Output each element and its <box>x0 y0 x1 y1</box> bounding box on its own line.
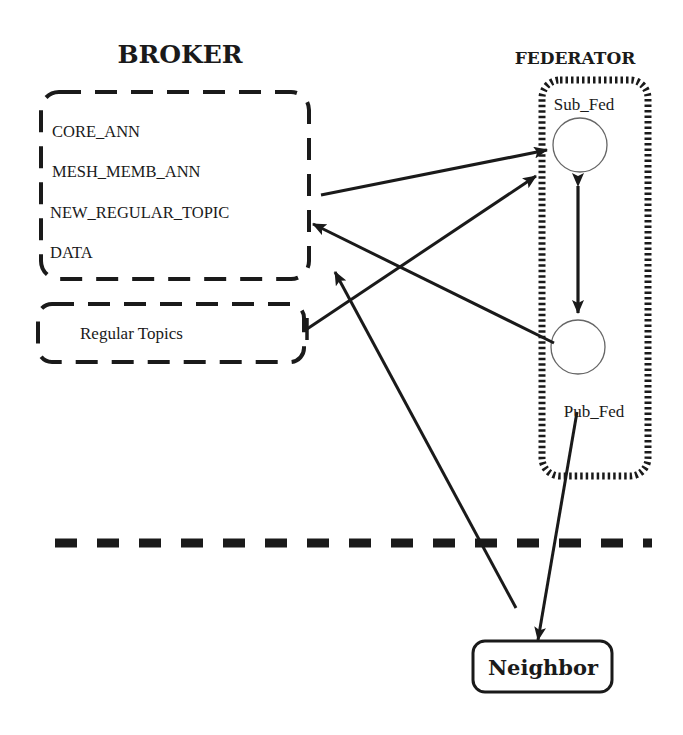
broker-title: BROKER <box>117 40 242 69</box>
neighbor-label: Neighbor <box>488 655 599 680</box>
broker-federator-diagram: BROKER CORE_ANN MESH_MEMB_ANN NEW_REGULA… <box>0 0 683 735</box>
regular-topics-to-subfed-arrow <box>307 176 536 329</box>
topic-data: DATA <box>50 243 93 262</box>
neighbor-to-broker-arrow <box>335 272 516 608</box>
topic-mesh-memb-ann: MESH_MEMB_ANN <box>52 162 201 181</box>
topic-core-ann: CORE_ANN <box>52 122 140 141</box>
broker-to-subfed-arrow <box>321 150 547 195</box>
federator-title: FEDERATOR <box>515 48 637 68</box>
pubfed-to-broker-arrow <box>313 224 554 343</box>
regular-topics-label: Regular Topics <box>80 324 183 343</box>
pub-fed-node <box>551 320 605 374</box>
topic-new-regular-topic: NEW_REGULAR_TOPIC <box>50 203 229 222</box>
sub-fed-node <box>553 118 607 172</box>
sub-fed-label: Sub_Fed <box>554 95 615 114</box>
pub-fed-label: Pub_Fed <box>564 402 625 421</box>
